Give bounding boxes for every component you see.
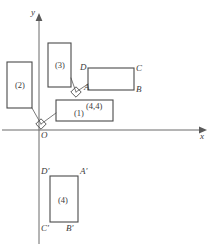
x-axis-label: x (200, 132, 204, 141)
rect-2-label: (2) (15, 81, 25, 90)
rect-3-label: (3) (55, 61, 65, 70)
point-coordinate-label: (4,4) (86, 102, 102, 111)
connector-origin-to-rect1 (41, 113, 56, 124)
vertex-label-D-prime: D′ (41, 167, 49, 176)
rectangle-group (7, 43, 134, 222)
vertex-label-A: A (84, 83, 90, 92)
y-axis-arrowhead (36, 13, 43, 21)
rect-1-label: (1) (74, 109, 84, 118)
origin-label: O (41, 131, 48, 140)
vertex-label-C: C (136, 64, 142, 73)
figure-canvas (0, 0, 220, 248)
vertex-label-B-prime: B′ (66, 224, 73, 233)
rect-1 (56, 100, 113, 121)
vertex-label-D: D (80, 63, 87, 72)
vertex-label-B: B (136, 85, 142, 94)
y-axis-label: y (31, 8, 35, 17)
connector-rect2-to-origin (32, 108, 41, 124)
x-axis (2, 127, 207, 134)
vertex-label-C-prime: C′ (41, 224, 49, 233)
rect-4-label: (4) (58, 196, 68, 205)
rect-abcd (88, 68, 134, 90)
vertex-label-A-prime: A′ (80, 167, 87, 176)
geometry-figure: y x O (1)(2)(3)(4)ABCDA′B′C′D′(4,4) (0, 0, 220, 248)
